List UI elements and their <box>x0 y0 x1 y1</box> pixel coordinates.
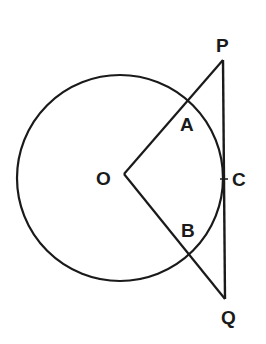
label-a: A <box>180 114 194 135</box>
circle <box>17 75 223 281</box>
label-p: P <box>216 35 229 56</box>
label-q: Q <box>221 307 236 328</box>
geometry-diagram: P A O C B Q <box>0 0 266 344</box>
label-b: B <box>181 220 195 241</box>
label-o: O <box>96 168 111 189</box>
label-c: C <box>232 169 246 190</box>
